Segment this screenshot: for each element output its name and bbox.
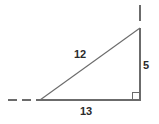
geometry-figure: 12 5 13 bbox=[0, 0, 159, 124]
base-leg-length-label: 13 bbox=[80, 106, 92, 117]
hypotenuse-line bbox=[40, 28, 140, 100]
hypotenuse-length-label: 12 bbox=[74, 49, 86, 60]
vertical-leg-length-label: 5 bbox=[143, 60, 149, 71]
right-angle-square-icon bbox=[133, 93, 141, 101]
